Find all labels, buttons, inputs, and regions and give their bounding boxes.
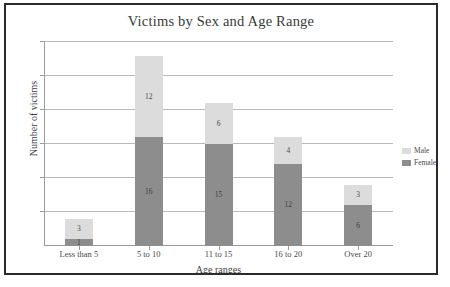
bar-value-label-female: 6: [356, 222, 360, 230]
bar-segment-female[interactable]: 12: [274, 164, 302, 246]
bar-group[interactable]: 36: [344, 185, 372, 246]
bar-segment-male[interactable]: 12: [135, 56, 163, 138]
bar-segment-female[interactable]: 15: [205, 144, 233, 246]
y-axis-tick: [40, 143, 44, 144]
legend-item[interactable]: Male: [402, 146, 450, 155]
y-axis-tick: [40, 75, 44, 76]
bar-value-label-female: 16: [145, 188, 153, 196]
bar-value-label-male: 4: [286, 147, 290, 155]
bar-segment-male[interactable]: 3: [344, 185, 372, 205]
bar-segment-male[interactable]: 6: [205, 103, 233, 144]
legend-swatch-male: [402, 148, 411, 154]
x-axis-tick-labels: Less than 55 to 1011 to 1516 to 20Over 2…: [44, 249, 393, 263]
y-axis-tick: [40, 41, 44, 42]
chart-frame: Victims by Sex and Age Range Number of v…: [4, 3, 438, 275]
legend-label: Male: [414, 146, 429, 155]
bar-value-label-male: 6: [217, 120, 221, 128]
bar-segment-female[interactable]: 6: [344, 205, 372, 246]
y-axis-tick: [40, 177, 44, 178]
x-axis-title: Age ranges: [44, 264, 393, 275]
y-axis-tick: [40, 211, 44, 212]
y-axis-tick: [40, 109, 44, 110]
chart-title: Victims by Sex and Age Range: [6, 13, 436, 30]
bar-series-container: 31121661541236: [44, 42, 393, 246]
bar-segment-female[interactable]: 16: [135, 137, 163, 246]
y-axis-title: Number of victims: [28, 44, 39, 194]
x-axis-tick-label: 11 to 15: [179, 249, 259, 259]
legend-item[interactable]: Female: [402, 158, 450, 167]
bar-value-label-female: 12: [285, 201, 293, 209]
bar-group[interactable]: 412: [274, 137, 302, 246]
bar-value-label-male: 3: [356, 191, 360, 199]
chart-legend: MaleFemale: [402, 146, 450, 170]
x-axis-tick-label: Over 20: [318, 249, 398, 259]
bar-group[interactable]: 615: [205, 103, 233, 246]
legend-label: Female: [414, 158, 436, 167]
bar-group[interactable]: 31: [65, 219, 93, 246]
bar-segment-male[interactable]: 4: [274, 137, 302, 164]
bar-segment-male[interactable]: 3: [65, 219, 93, 239]
legend-swatch-female: [402, 160, 411, 166]
bar-group[interactable]: 1216: [135, 56, 163, 246]
bar-value-label-male: 3: [77, 225, 81, 233]
bar-value-label-female: 15: [215, 191, 223, 199]
x-axis-tick-label: 16 to 20: [248, 249, 328, 259]
x-axis-tick-label: Less than 5: [39, 249, 119, 259]
x-axis-tick-label: 5 to 10: [109, 249, 189, 259]
bar-segment-female[interactable]: 1: [65, 239, 93, 246]
plot-area: 31121661541236: [44, 42, 393, 246]
bar-value-label-male: 12: [145, 93, 153, 101]
